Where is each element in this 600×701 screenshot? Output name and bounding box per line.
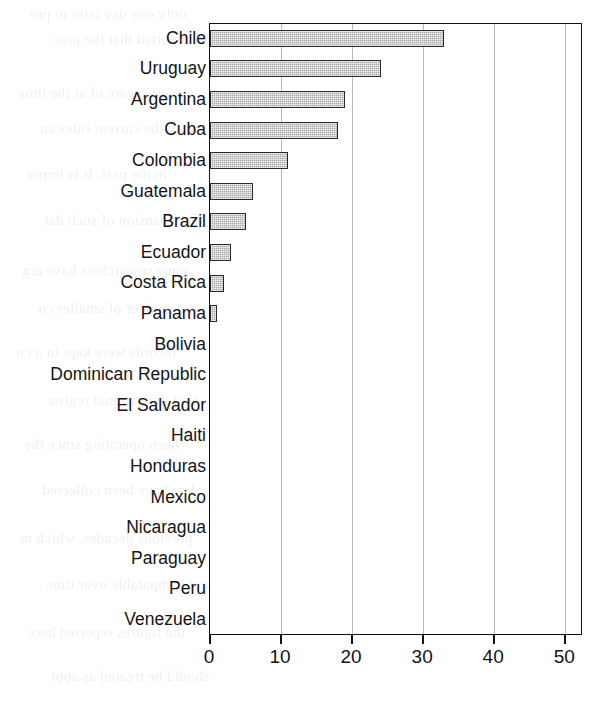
bar <box>210 213 246 230</box>
horizontal-bar-chart: ChileUruguayArgentinaCubaColombiaGuatema… <box>0 0 600 701</box>
bar-track <box>210 176 253 207</box>
x-tick-label: 50 <box>554 647 575 666</box>
bar-row: Peru <box>0 574 600 605</box>
bar-row: Colombia <box>0 145 600 176</box>
x-tick-mark <box>493 635 495 644</box>
category-label: Venezuela <box>0 611 206 629</box>
bar-row: Costa Rica <box>0 268 600 299</box>
bar-row: Honduras <box>0 451 600 482</box>
bar-row: Uruguay <box>0 54 600 85</box>
x-tick-label: 20 <box>341 647 362 666</box>
bar-track <box>210 145 288 176</box>
x-tick-label: 30 <box>412 647 433 666</box>
bar-track <box>210 54 381 85</box>
bar <box>210 183 253 200</box>
x-axis: 01020304050 <box>209 635 582 695</box>
bar-track <box>210 23 444 54</box>
bar <box>210 30 444 47</box>
bar-track <box>210 298 217 329</box>
bar-track <box>210 115 338 146</box>
bar-track <box>210 84 345 115</box>
bar-row: Guatemala <box>0 176 600 207</box>
x-tick-mark <box>564 635 566 644</box>
category-label: Panama <box>0 305 206 323</box>
category-label: Cuba <box>0 121 206 139</box>
category-label: Ecuador <box>0 244 206 262</box>
bar <box>210 122 338 139</box>
category-label: Chile <box>0 30 206 48</box>
category-label: Bolivia <box>0 336 206 354</box>
category-label: Haiti <box>0 427 206 445</box>
bar <box>210 91 345 108</box>
bar-row: Panama <box>0 298 600 329</box>
bar-row: Argentina <box>0 84 600 115</box>
x-tick-label: 0 <box>204 647 215 666</box>
x-tick-mark <box>422 635 424 644</box>
bar-row: Brazil <box>0 207 600 238</box>
category-label: Colombia <box>0 152 206 170</box>
category-label: Nicaragua <box>0 519 206 537</box>
x-tick-label: 10 <box>269 647 290 666</box>
bar-row: Bolivia <box>0 329 600 360</box>
category-label: Dominican Republic <box>0 366 206 384</box>
bar-row: Dominican Republic <box>0 360 600 391</box>
bar-track <box>210 268 224 299</box>
bar-row: Chile <box>0 23 600 54</box>
category-label: El Salvador <box>0 397 206 415</box>
bar-track <box>210 237 231 268</box>
category-label: Uruguay <box>0 60 206 78</box>
x-tick-mark <box>209 635 211 644</box>
category-label: Honduras <box>0 458 206 476</box>
bar-row: Ecuador <box>0 237 600 268</box>
category-label: Argentina <box>0 91 206 109</box>
x-tick-label: 40 <box>483 647 504 666</box>
category-label: Brazil <box>0 213 206 231</box>
category-rows: ChileUruguayArgentinaCubaColombiaGuatema… <box>0 23 600 635</box>
category-label: Paraguay <box>0 550 206 568</box>
category-label: Peru <box>0 580 206 598</box>
bar-row: Haiti <box>0 421 600 452</box>
bar-row: Paraguay <box>0 543 600 574</box>
category-label: Guatemala <box>0 183 206 201</box>
category-label: Costa Rica <box>0 274 206 292</box>
category-label: Mexico <box>0 489 206 507</box>
bar-track <box>210 207 246 238</box>
bar <box>210 305 217 322</box>
bar <box>210 275 224 292</box>
x-tick-mark <box>351 635 353 644</box>
bar-row: Nicaragua <box>0 513 600 544</box>
bar-row: Cuba <box>0 115 600 146</box>
bar-row: Venezuela <box>0 604 600 635</box>
x-tick-mark <box>280 635 282 644</box>
bar-row: El Salvador <box>0 390 600 421</box>
bar <box>210 244 231 261</box>
bar <box>210 60 381 77</box>
bar <box>210 152 288 169</box>
bar-row: Mexico <box>0 482 600 513</box>
